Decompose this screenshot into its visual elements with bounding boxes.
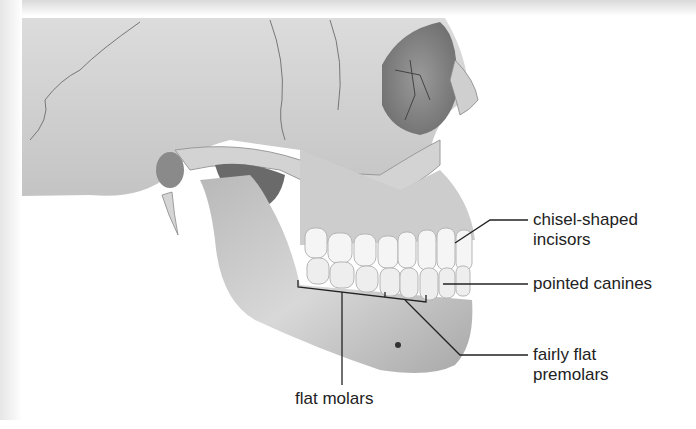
label-premolars: fairly flat premolars [533, 345, 609, 385]
label-canines-line1: pointed canines [533, 274, 652, 294]
label-incisors-line2: incisors [533, 230, 638, 250]
label-premolars-line2: premolars [533, 365, 609, 385]
figure-frame: chisel-shaped incisors pointed canines f… [0, 0, 696, 429]
ear-canal [156, 152, 184, 188]
styloid-process [162, 192, 178, 235]
label-canines: pointed canines [533, 274, 652, 294]
mental-foramen [395, 342, 401, 348]
label-molars: flat molars [295, 389, 373, 409]
label-molars-line1: flat molars [295, 389, 373, 409]
label-incisors: chisel-shaped incisors [533, 210, 638, 250]
label-incisors-line1: chisel-shaped [533, 210, 638, 230]
label-premolars-line1: fairly flat [533, 345, 609, 365]
